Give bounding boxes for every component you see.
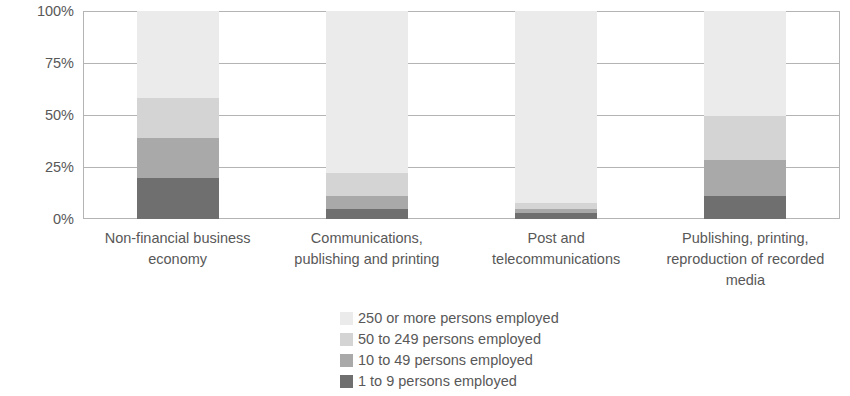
bar-segment[interactable]: [137, 11, 219, 98]
bar-stack: [326, 11, 408, 219]
x-axis-label: Post andtelecommunications: [452, 228, 661, 270]
legend-item[interactable]: 250 or more persons employed: [340, 308, 670, 328]
bar-segment[interactable]: [704, 160, 786, 196]
bar-group: [326, 11, 408, 219]
bar-segment[interactable]: [137, 138, 219, 179]
y-tick-label-100: 100%: [4, 4, 74, 19]
bar-segment[interactable]: [515, 11, 597, 203]
legend-label: 1 to 9 persons employed: [358, 374, 517, 389]
bar-stack: [137, 11, 219, 219]
bar-stack: [704, 11, 786, 219]
bar-group: [515, 11, 597, 219]
legend-swatch-icon: [340, 375, 353, 388]
y-axis: 100% 75% 50% 25% 0%: [0, 0, 83, 230]
chart-container: 100% 75% 50% 25% 0% Non-financial busine…: [0, 0, 850, 396]
bar-segment[interactable]: [326, 196, 408, 208]
legend-item[interactable]: 1 to 9 persons employed: [340, 371, 670, 391]
bars-layer: [83, 11, 840, 219]
bar-segment[interactable]: [137, 178, 219, 219]
bar-segment[interactable]: [326, 11, 408, 173]
x-axis-label: Non-financial businesseconomy: [73, 228, 282, 270]
bar-segment[interactable]: [704, 116, 786, 160]
bar-group: [137, 11, 219, 219]
legend-item[interactable]: 50 to 249 persons employed: [340, 329, 670, 349]
bar-segment[interactable]: [326, 209, 408, 219]
legend-label: 10 to 49 persons employed: [358, 353, 533, 368]
y-tick-label-50: 50%: [4, 108, 74, 123]
chart-legend: 250 or more persons employed50 to 249 pe…: [340, 308, 670, 392]
y-tick-label-25: 25%: [4, 160, 74, 175]
bar-segment[interactable]: [326, 173, 408, 196]
x-axis-label: Publishing, printing,reproduction of rec…: [641, 228, 850, 291]
bar-group: [704, 11, 786, 219]
legend-swatch-icon: [340, 312, 353, 325]
bar-segment[interactable]: [515, 213, 597, 219]
legend-item[interactable]: 10 to 49 persons employed: [340, 350, 670, 370]
legend-label: 50 to 249 persons employed: [358, 332, 541, 347]
x-axis-label: Communications,publishing and printing: [262, 228, 471, 270]
bar-stack: [515, 11, 597, 219]
bar-segment[interactable]: [137, 98, 219, 138]
legend-swatch-icon: [340, 333, 353, 346]
y-tick-label-75: 75%: [4, 56, 74, 71]
x-axis-labels: Non-financial businesseconomyCommunicati…: [83, 228, 840, 298]
legend-swatch-icon: [340, 354, 353, 367]
bar-segment[interactable]: [704, 196, 786, 219]
legend-label: 250 or more persons employed: [358, 311, 559, 326]
y-tick-label-0: 0%: [4, 212, 74, 227]
bar-segment[interactable]: [704, 11, 786, 116]
